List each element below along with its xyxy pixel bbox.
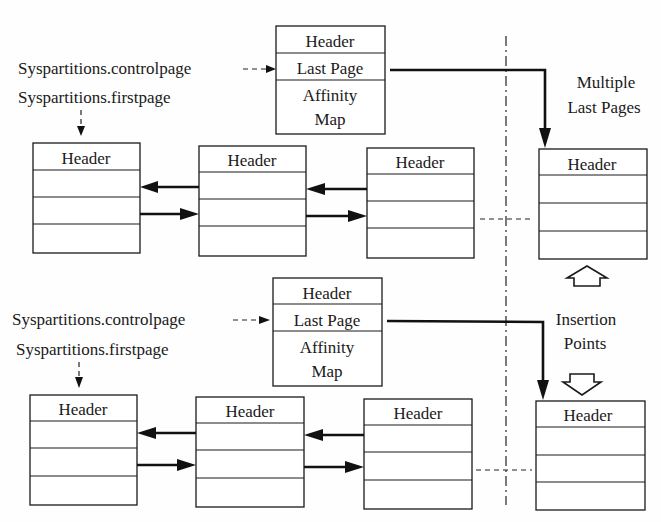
top-firstpage-label: Syspartitions.firstpage [18, 88, 171, 107]
insertion-points-line2: Points [564, 334, 607, 353]
control-last-page: Last Page [297, 59, 364, 78]
bottom-controlpage-label: Syspartitions.controlpage [12, 310, 185, 329]
bottom-prev-link-2-1 [137, 427, 196, 439]
control-last-page: Last Page [294, 311, 361, 330]
top-next-link-2-3 [306, 210, 367, 222]
page-header: Header [58, 400, 107, 419]
bottom-control-page: Header Last Page Affinity Map [273, 278, 382, 386]
multiple-last-pages-line1: Multiple [577, 73, 636, 92]
multiple-last-pages-line2: Last Pages [567, 98, 640, 117]
diagram-canvas: Syspartitions.controlpage Syspartitions.… [0, 0, 661, 522]
top-last-page-pointer [390, 70, 551, 148]
top-page-3: Header [367, 148, 474, 258]
bottom-next-link-1-2 [137, 459, 196, 471]
bottom-prev-link-3-2 [304, 429, 364, 441]
top-controlpage-arrow [243, 65, 276, 73]
page-header: Header [227, 151, 276, 170]
control-map: Map [311, 362, 342, 381]
page-header: Header [563, 406, 612, 425]
top-page-1: Header [33, 143, 140, 253]
top-prev-link-2-1 [140, 181, 199, 193]
bottom-controlpage-arrow [233, 316, 270, 324]
bottom-next-link-2-3 [304, 461, 364, 473]
top-group: Syspartitions.controlpage Syspartitions.… [18, 26, 647, 259]
page-header: Header [393, 404, 442, 423]
page-header: Header [395, 153, 444, 172]
top-controlpage-label: Syspartitions.controlpage [18, 59, 191, 78]
top-last-page: Header [539, 149, 647, 259]
bottom-group: Syspartitions.controlpage Syspartitions.… [12, 278, 645, 510]
bottom-firstpage-label: Syspartitions.firstpage [16, 340, 169, 359]
bottom-last-page-pointer [387, 321, 549, 400]
bottom-page-1: Header [30, 395, 137, 505]
control-header: Header [302, 284, 351, 303]
page-header: Header [225, 402, 274, 421]
top-next-link-1-2 [140, 208, 199, 220]
bottom-page-2: Header [196, 397, 304, 507]
insertion-down-arrow-icon [563, 374, 601, 395]
bottom-firstpage-arrow [75, 362, 83, 388]
top-firstpage-arrow [77, 110, 85, 136]
top-page-2: Header [199, 146, 306, 256]
control-header: Header [305, 32, 354, 51]
bottom-last-page: Header [536, 401, 645, 510]
insertion-up-arrow-icon [567, 266, 607, 286]
page-header: Header [61, 149, 110, 168]
top-control-page: Header Last Page Affinity Map [276, 26, 385, 134]
top-prev-link-3-2 [306, 183, 367, 195]
insertion-points-line1: Insertion [556, 310, 617, 329]
control-map: Map [314, 110, 345, 129]
control-affinity: Affinity [300, 338, 355, 357]
bottom-page-3: Header [364, 399, 472, 509]
control-affinity: Affinity [303, 86, 358, 105]
page-header: Header [567, 155, 616, 174]
